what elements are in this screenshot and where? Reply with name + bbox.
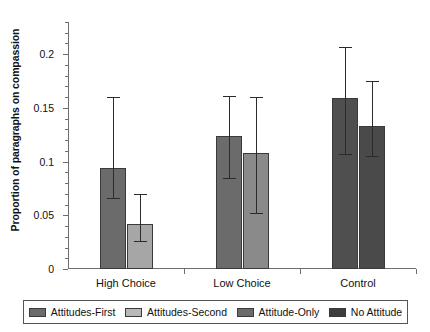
- y-tick-major: [63, 108, 68, 109]
- y-tick-minor: [65, 22, 68, 23]
- legend-swatch-icon: [329, 308, 346, 317]
- y-tick-minor: [65, 97, 68, 98]
- chart-root: 00.050.10.150.2 Proportion of paragraphs…: [0, 0, 430, 332]
- y-tick-minor: [65, 76, 68, 77]
- y-tick-minor: [65, 226, 68, 227]
- legend-item[interactable]: No Attitude: [329, 306, 402, 318]
- error-bar-cap-bottom: [339, 154, 352, 155]
- y-axis-title: Proportion of paragraphs on compassion: [9, 5, 21, 255]
- x-axis-tick-labels: High ChoiceLow ChoiceControl: [68, 271, 416, 289]
- y-tick-minor: [65, 151, 68, 152]
- y-tick-minor: [65, 119, 68, 120]
- y-tick-minor: [65, 86, 68, 87]
- y-tick-minor: [65, 205, 68, 206]
- error-bar-cap-top: [366, 81, 379, 82]
- y-tick-label: 0.1: [39, 157, 54, 167]
- error-bar-cap-bottom: [223, 178, 236, 179]
- x-tick-label: Low Choice: [213, 277, 270, 289]
- legend-label: No Attitude: [351, 306, 402, 318]
- legend-label: Attitudes-Second: [147, 306, 227, 318]
- y-tick-minor: [65, 194, 68, 195]
- y-tick-major: [63, 269, 68, 270]
- y-tick-label: 0.15: [34, 103, 54, 113]
- error-bar-line: [256, 97, 257, 213]
- y-tick-minor: [65, 248, 68, 249]
- y-tick-minor: [65, 183, 68, 184]
- y-tick-minor: [65, 237, 68, 238]
- y-tick-major: [63, 54, 68, 55]
- legend-item[interactable]: Attitudes-Second: [125, 306, 227, 318]
- legend-swatch-icon: [29, 308, 46, 317]
- legend-swatch-icon: [237, 308, 254, 317]
- error-bar-line: [229, 96, 230, 178]
- y-tick-minor: [65, 140, 68, 141]
- error-bar-line: [372, 81, 373, 156]
- legend-item[interactable]: Attitudes-First: [29, 306, 116, 318]
- y-tick-minor: [65, 172, 68, 173]
- legend-label: Attitudes-First: [51, 306, 116, 318]
- error-bar-line: [345, 47, 346, 154]
- y-tick-minor: [65, 129, 68, 130]
- error-bar-cap-bottom: [107, 198, 120, 199]
- y-tick-major: [63, 215, 68, 216]
- chart-legend: Attitudes-FirstAttitudes-SecondAttitude-…: [23, 300, 408, 324]
- x-tick-label: Control: [340, 277, 375, 289]
- error-bar-cap-bottom: [250, 213, 263, 214]
- error-bar-cap-top: [223, 96, 236, 97]
- y-tick-minor: [65, 258, 68, 259]
- error-bar-cap-top: [339, 47, 352, 48]
- error-bar-cap-bottom: [134, 241, 147, 242]
- error-bar-cap-top: [250, 97, 263, 98]
- y-tick-label: 0: [48, 264, 54, 274]
- y-axis-line: [68, 22, 69, 269]
- x-tick-mark: [416, 269, 417, 274]
- y-tick-minor: [65, 43, 68, 44]
- error-bar-line: [140, 194, 141, 241]
- y-tick-minor: [65, 65, 68, 66]
- plot-area: [68, 22, 416, 269]
- x-tick-label: High Choice: [96, 277, 156, 289]
- error-bar-line: [113, 97, 114, 198]
- error-bar-cap-top: [107, 97, 120, 98]
- legend-item[interactable]: Attitude-Only: [237, 306, 320, 318]
- error-bar-cap-bottom: [366, 156, 379, 157]
- y-tick-major: [63, 162, 68, 163]
- y-tick-minor: [65, 33, 68, 34]
- error-bar-cap-top: [134, 194, 147, 195]
- y-tick-label: 0.05: [34, 210, 54, 220]
- y-tick-label: 0.2: [39, 49, 54, 59]
- legend-swatch-icon: [125, 308, 142, 317]
- legend-label: Attitude-Only: [259, 306, 320, 318]
